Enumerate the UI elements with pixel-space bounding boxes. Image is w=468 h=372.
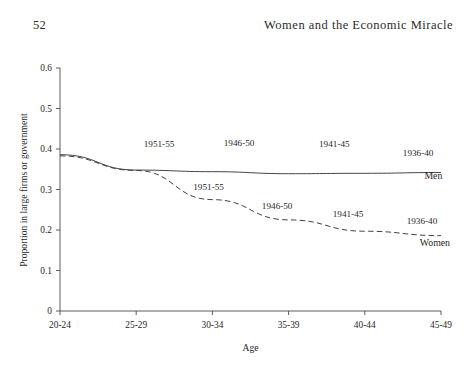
- y-tick-label: 0.5: [40, 104, 52, 114]
- y-tick-label: 0.3: [40, 185, 52, 195]
- page: 52 Women and the Economic Miracle 00.10.…: [0, 0, 468, 372]
- series-annotations: 1951-551946-501941-451936-40Men1951-5519…: [144, 138, 450, 248]
- x-tick-label: 25-29: [125, 320, 147, 330]
- y-tick-label: 0.1: [40, 266, 52, 276]
- annotation-1936-40: 1936-40: [407, 216, 438, 226]
- annotation-men: Men: [424, 170, 442, 181]
- annotation-1951-55: 1951-55: [193, 182, 224, 192]
- x-tick-label: 40-44: [354, 320, 376, 330]
- annotation-women: Women: [420, 237, 450, 248]
- x-tick-label: 30-34: [201, 320, 223, 330]
- y-axis-title: Proportion in large firms or government: [18, 113, 29, 267]
- y-tick-labels: 00.10.20.30.40.50.6: [40, 63, 52, 316]
- y-tick-label: 0.6: [40, 63, 52, 73]
- annotation-1951-55: 1951-55: [144, 139, 175, 149]
- x-tick-label: 20-24: [49, 320, 71, 330]
- annotation-1946-50: 1946-50: [262, 201, 293, 211]
- x-tick-label: 35-39: [278, 320, 300, 330]
- chart-figure: 00.10.20.30.40.50.6 20-2425-2930-3435-39…: [0, 0, 468, 372]
- series-line-men: [60, 155, 441, 174]
- y-axis-ticks: [56, 68, 60, 311]
- y-tick-label: 0: [47, 306, 52, 316]
- y-tick-label: 0.2: [40, 225, 52, 235]
- y-tick-label: 0.4: [40, 144, 52, 154]
- annotation-1946-50: 1946-50: [224, 138, 255, 148]
- annotation-1936-40: 1936-40: [403, 148, 434, 158]
- annotation-1941-45: 1941-45: [319, 139, 350, 149]
- x-tick-labels: 20-2425-2930-3435-3940-4445-49: [49, 320, 452, 330]
- x-axis-title: Age: [243, 342, 259, 353]
- chart-svg: 00.10.20.30.40.50.6 20-2425-2930-3435-39…: [0, 0, 468, 372]
- series-line-women: [60, 156, 441, 236]
- x-axis-ticks: [60, 311, 441, 315]
- annotation-1941-45: 1941-45: [333, 209, 364, 219]
- x-tick-label: 45-49: [430, 320, 452, 330]
